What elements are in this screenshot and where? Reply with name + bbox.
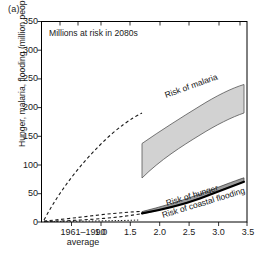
figure-panel-a: (a) Hunger, malaria, flooding (million p…: [0, 0, 261, 266]
top-axis-ticks: [60, 22, 240, 26]
series-coastal-flooding-dashed: [44, 214, 142, 222]
left-axis-ticks: [38, 22, 42, 223]
chart-canvas: Risk of malaria Risk of hunger Risk of c…: [0, 0, 261, 266]
series-malaria-dashed: [44, 113, 142, 220]
bottom-axis-ticks: [72, 222, 248, 226]
annotation-risk-of-malaria: Risk of malaria: [163, 71, 219, 99]
series-malaria-band: [142, 85, 244, 179]
